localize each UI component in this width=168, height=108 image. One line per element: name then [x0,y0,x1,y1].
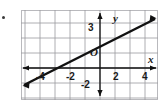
x-axis-label: x [148,54,154,65]
y-tick-label-3: 3 [88,23,94,33]
coordinate-graph-figure: y x O -4 -2 2 4 3 -2 [0,0,168,108]
x-tick-label-2: 2 [113,72,119,82]
y-axis [97,13,102,96]
graph-canvas [0,0,168,108]
y-axis-label: y [113,13,118,24]
x-tick-label-minus-2: -2 [66,72,75,82]
y-tick-label-minus-2: -2 [81,80,90,90]
x-tick-label-4: 4 [142,72,148,82]
x-tick-label-minus-4: -4 [36,72,45,82]
x-axis [23,65,156,70]
origin-label: O [90,47,98,58]
